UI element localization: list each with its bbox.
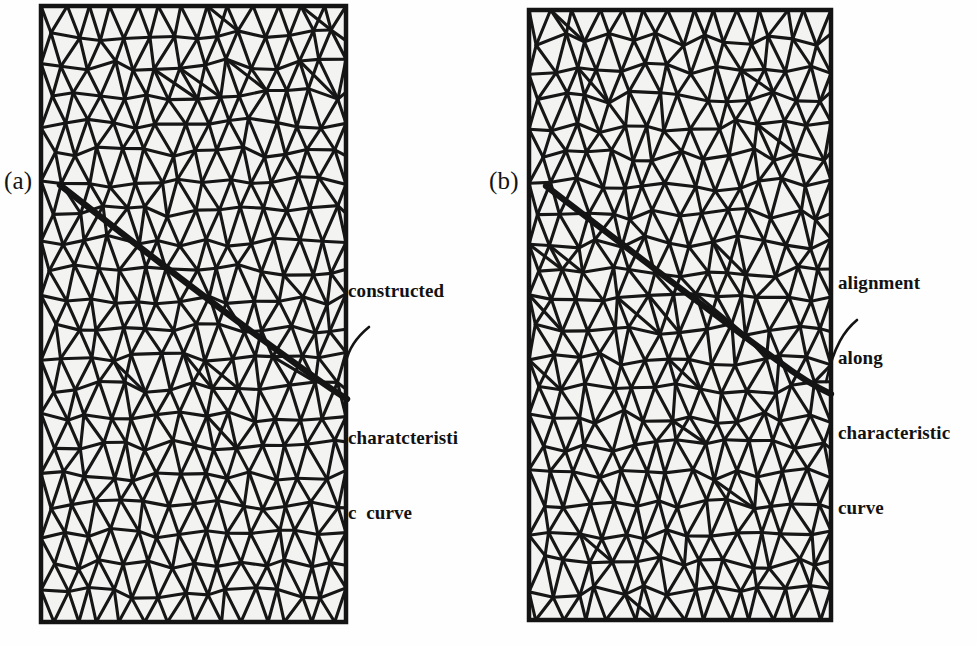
panel-a-mesh xyxy=(41,6,369,622)
panel-b-annotation: alignment along characteristic curve xyxy=(838,220,950,570)
panel-b-mesh xyxy=(529,10,857,620)
panel-b-caption: (b) xyxy=(489,168,519,193)
panel-a-annotation: constructed charatcteristi c curve xyxy=(348,228,458,575)
panel-a-annotation-line-2: charatcteristi xyxy=(348,425,458,450)
panel-a-annotation-line-3: c curve xyxy=(348,500,458,525)
panel-b-annotation-line-3: characteristic xyxy=(838,420,950,445)
panel-b-annotation-line-2: along xyxy=(838,345,950,370)
mesh-figure-canvas xyxy=(0,0,977,646)
panel-a-annotation-line-1: constructed xyxy=(348,278,458,303)
panel-b-annotation-line-1: alignment xyxy=(838,270,950,295)
panel-a-caption: (a) xyxy=(4,168,32,193)
panel-b-annotation-line-4: curve xyxy=(838,495,950,520)
panel-a-annotation-spacer xyxy=(348,353,458,375)
figure-root: (a) (b) constructed charatcteristi c cur… xyxy=(0,0,977,646)
